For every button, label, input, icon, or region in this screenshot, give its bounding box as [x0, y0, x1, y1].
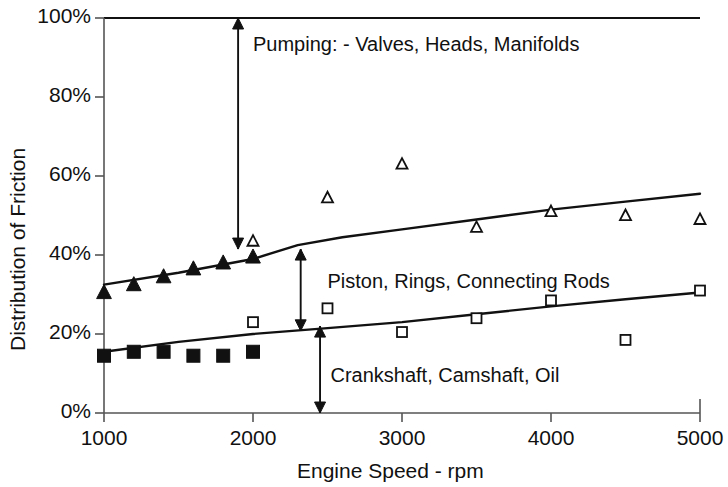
data-point-marker	[621, 335, 631, 345]
x-tick-label: 2000	[198, 426, 308, 450]
data-point-marker	[397, 327, 407, 337]
crankshaft-label: Crankshaft, Camshaft, Oil	[330, 364, 559, 387]
y-axis-title: Distribution of Friction	[6, 147, 30, 350]
data-point-marker	[546, 295, 556, 305]
data-point-marker	[322, 192, 333, 203]
y-tick-label: 0%	[5, 399, 91, 423]
data-point-marker	[217, 349, 230, 362]
data-point-marker	[157, 345, 170, 358]
data-point-marker	[248, 317, 258, 327]
data-point-marker	[471, 221, 482, 232]
pumping-label: Pumping: - Valves, Heads, Manifolds	[253, 33, 579, 56]
x-tick-label: 3000	[347, 426, 457, 450]
data-point-marker	[620, 210, 631, 221]
data-point-marker	[396, 158, 407, 169]
data-point-marker	[98, 349, 111, 362]
data-point-marker	[695, 286, 705, 296]
x-axis-title: Engine Speed - rpm	[297, 459, 484, 483]
x-tick-label: 5000	[645, 426, 728, 450]
data-point-marker	[472, 313, 482, 323]
x-tick-label: 4000	[496, 426, 606, 450]
data-point-marker	[246, 249, 261, 263]
data-point-marker	[216, 255, 231, 269]
data-point-marker	[247, 345, 260, 358]
chart-axes	[95, 18, 700, 422]
data-point-marker	[97, 285, 112, 299]
data-markers	[97, 158, 706, 362]
y-tick-label: 80%	[5, 83, 91, 107]
data-point-marker	[127, 345, 140, 358]
data-point-marker	[247, 235, 258, 246]
data-point-marker	[187, 349, 200, 362]
data-point-marker	[694, 213, 705, 224]
piston-label: Piston, Rings, Connecting Rods	[328, 270, 610, 293]
data-point-marker	[323, 303, 333, 313]
crankshaft-arrow	[315, 326, 326, 413]
lower-boundary-curve	[104, 293, 700, 352]
piston-arrow	[295, 249, 306, 331]
y-tick-label: 100%	[5, 4, 91, 28]
pumping-arrow	[233, 18, 244, 249]
x-tick-label: 1000	[49, 426, 159, 450]
